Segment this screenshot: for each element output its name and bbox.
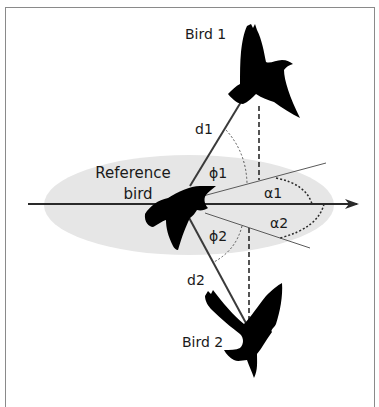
bird1-label: Bird 1 [185, 26, 226, 42]
bird2-label: Bird 2 [182, 334, 223, 350]
distance-label-d2: d2 [187, 272, 205, 288]
bird2-silhouette [205, 283, 282, 378]
angle-label-phi1: ϕ1 [209, 165, 227, 181]
angle-label-phi2: ϕ2 [209, 228, 227, 244]
distance-label-d1: d1 [195, 121, 213, 137]
angle-label-alpha1: α1 [264, 185, 282, 201]
reference-bird-label-line1: Reference [95, 164, 171, 182]
reference-bird-label-line2: bird [123, 185, 152, 203]
angle-label-alpha2: α2 [270, 215, 288, 231]
